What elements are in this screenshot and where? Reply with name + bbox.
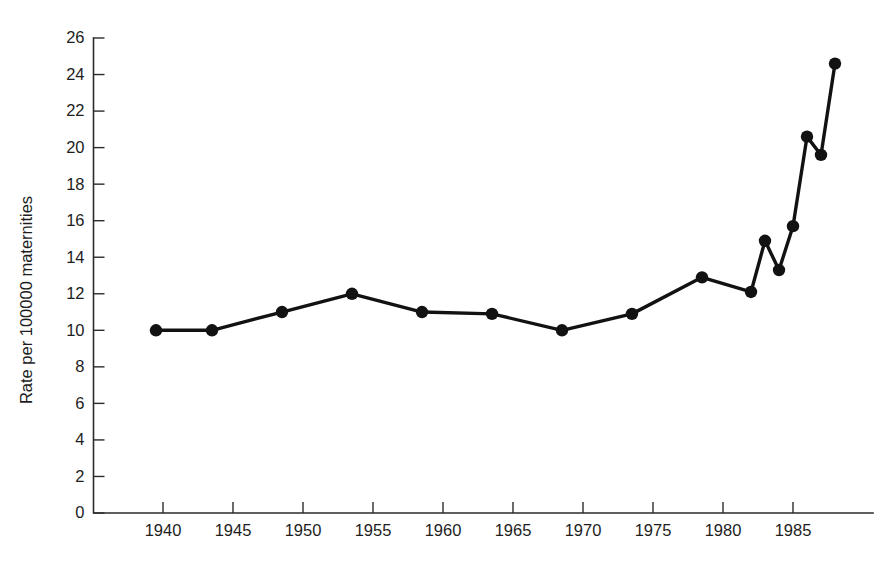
y-axis-tick-labels: 02468101214161820222426 bbox=[66, 28, 84, 521]
data-point-marker bbox=[759, 235, 771, 247]
data-point-marker bbox=[745, 286, 757, 298]
data-point-marker bbox=[276, 306, 288, 318]
y-tick-label: 20 bbox=[66, 138, 84, 156]
x-tick-label: 1975 bbox=[635, 521, 672, 539]
chart-tick-marks bbox=[94, 38, 794, 513]
x-tick-label: 1950 bbox=[285, 521, 322, 539]
y-tick-label: 26 bbox=[66, 28, 84, 46]
data-point-marker bbox=[416, 306, 428, 318]
data-point-marker bbox=[626, 308, 638, 320]
y-tick-label: 0 bbox=[75, 503, 84, 521]
data-point-marker bbox=[150, 324, 162, 336]
y-tick-label: 24 bbox=[66, 65, 84, 83]
x-tick-label: 1970 bbox=[565, 521, 602, 539]
data-point-marker bbox=[773, 264, 785, 276]
data-point-marker bbox=[696, 271, 708, 283]
data-point-marker bbox=[801, 130, 813, 142]
x-tick-label: 1965 bbox=[495, 521, 532, 539]
x-tick-label: 1955 bbox=[355, 521, 392, 539]
x-tick-label: 1945 bbox=[215, 521, 252, 539]
y-tick-label: 4 bbox=[75, 430, 84, 448]
y-tick-label: 8 bbox=[75, 357, 84, 375]
x-tick-label: 1960 bbox=[425, 521, 462, 539]
y-tick-label: 18 bbox=[66, 175, 84, 193]
y-tick-label: 16 bbox=[66, 211, 84, 229]
y-tick-label: 14 bbox=[66, 248, 84, 266]
x-tick-label: 1985 bbox=[775, 521, 812, 539]
data-point-marker bbox=[346, 288, 358, 300]
data-series-line bbox=[156, 64, 835, 331]
data-point-marker bbox=[787, 220, 799, 232]
data-point-marker bbox=[486, 308, 498, 320]
data-point-marker bbox=[206, 324, 218, 336]
y-tick-label: 10 bbox=[66, 321, 84, 339]
data-point-markers bbox=[150, 57, 841, 336]
y-axis-title: Rate per 100000 maternities bbox=[17, 196, 35, 404]
x-tick-label: 1980 bbox=[705, 521, 742, 539]
y-tick-label: 6 bbox=[75, 394, 84, 412]
x-axis-tick-labels: 1940194519501955196019651970197519801985 bbox=[145, 521, 812, 539]
y-tick-label: 22 bbox=[66, 101, 84, 119]
series-polyline bbox=[156, 64, 835, 331]
chart-figure: 02468101214161820222426 1940194519501955… bbox=[0, 0, 879, 572]
data-point-marker bbox=[829, 57, 841, 69]
line-chart-canvas: 02468101214161820222426 1940194519501955… bbox=[0, 0, 879, 572]
data-point-marker bbox=[815, 149, 827, 161]
data-point-marker bbox=[556, 324, 568, 336]
y-tick-label: 12 bbox=[66, 284, 84, 302]
x-tick-label: 1940 bbox=[145, 521, 182, 539]
y-tick-label: 2 bbox=[75, 467, 84, 485]
